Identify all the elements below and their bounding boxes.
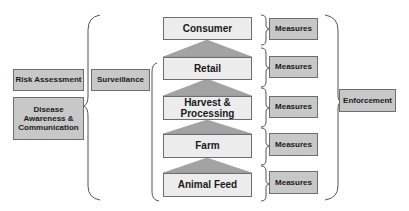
chain-box-consumer: Consumer — [163, 17, 252, 40]
chain-box-farm: Farm — [163, 134, 252, 158]
triangle-arrow — [163, 40, 252, 57]
chain-box-animal-feed: Animal Feed — [163, 173, 252, 197]
measures-brace — [261, 88, 269, 127]
measures-brace — [261, 128, 269, 165]
measures-brace — [261, 15, 269, 45]
surveillance-brace — [152, 63, 159, 201]
disease-awareness-box: Disease Awareness & Communication — [13, 97, 84, 140]
enforcement-box: Enforcement — [339, 89, 396, 112]
measures-brace — [261, 48, 269, 87]
measures-box: Measures — [269, 18, 318, 40]
chain-box-retail: Retail — [163, 57, 252, 80]
measures-box: Measures — [269, 56, 318, 78]
triangle-arrow — [163, 79, 252, 96]
measures-brace — [261, 166, 269, 201]
triangle-arrow — [163, 120, 252, 134]
measures-box: Measures — [269, 96, 318, 118]
chain-box-harvest-processing: Harvest & Processing — [163, 96, 252, 120]
measures-box: Measures — [269, 171, 318, 194]
triangle-arrow — [163, 158, 252, 173]
measures-box: Measures — [269, 133, 318, 156]
risk-assessment-box: Risk Assessment — [13, 69, 84, 91]
left-brace — [84, 15, 100, 200]
surveillance-box: Surveillance — [91, 69, 150, 91]
